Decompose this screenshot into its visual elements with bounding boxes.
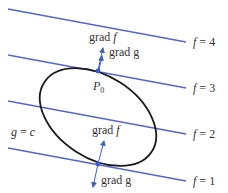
label-grad-f-top: grad f [89,30,118,44]
grad-g-arrow-bottom [93,164,98,187]
lagrange-diagram: f = 4 f = 3 f = 2 f = 1 grad f grad g P0… [0,0,228,193]
grad-f-arrow-top [98,48,103,70]
label-f2: f = 2 [193,127,215,141]
diagram-canvas: f = 4 f = 3 f = 2 f = 1 grad f grad g P0… [0,0,228,193]
label-f3: f = 3 [193,81,215,95]
label-p0: P0 [92,79,104,95]
label-f1: f = 1 [193,174,215,188]
label-grad-f-bottom: grad f [92,123,121,137]
label-grad-g-top: grad g [109,45,139,59]
label-grad-g-bottom: grad g [101,173,131,187]
point-p0 [96,69,101,74]
point-bottom [96,162,101,167]
label-f4: f = 4 [193,35,215,49]
grad-f-arrow-bottom [98,141,104,164]
label-constraint: g = c [11,125,36,139]
